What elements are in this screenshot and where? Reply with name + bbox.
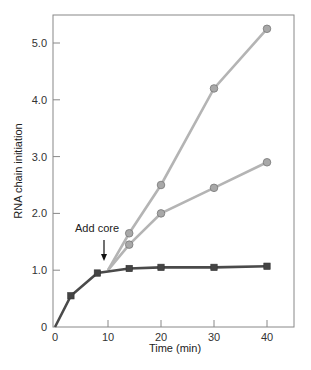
y-tick-label: 4.0: [32, 94, 47, 106]
x-tick-label: 10: [102, 331, 114, 343]
x-tick-label: 30: [208, 331, 220, 343]
chart: 01.02.03.04.05.0 010203040 Time (min) RN…: [0, 0, 311, 370]
circle-marker: [263, 158, 271, 166]
circle-marker: [125, 229, 133, 237]
y-tick-label: 1.0: [32, 264, 47, 276]
y-axis-label: RNA chain initiation: [12, 123, 24, 218]
square-marker: [68, 293, 74, 299]
circle-marker: [263, 25, 271, 33]
annotation-label: Add core: [75, 222, 119, 234]
y-axis: 01.02.03.04.05.0: [32, 37, 60, 333]
x-axis: 010203040: [52, 320, 273, 343]
series-line: [55, 266, 267, 327]
circle-marker: [157, 210, 165, 218]
square-marker: [211, 264, 217, 270]
y-tick-label: 0: [41, 321, 47, 333]
arrow-head-icon: [101, 254, 107, 261]
circle-marker: [157, 181, 165, 189]
x-axis-label: Time (min): [149, 342, 201, 354]
y-tick-label: 2.0: [32, 207, 47, 219]
y-tick-label: 5.0: [32, 37, 47, 49]
annotation-add-core: Add core: [75, 222, 119, 261]
x-tick-label: 0: [52, 331, 58, 343]
circle-marker: [125, 241, 133, 249]
series-group: [55, 25, 271, 327]
y-tick-label: 3.0: [32, 151, 47, 163]
square-marker: [126, 265, 132, 271]
x-tick-label: 40: [261, 331, 273, 343]
square-marker: [158, 264, 164, 270]
square-marker: [264, 263, 270, 269]
circle-marker: [210, 184, 218, 192]
series-line: [108, 162, 267, 270]
circle-marker: [210, 85, 218, 93]
square-marker: [94, 270, 100, 276]
